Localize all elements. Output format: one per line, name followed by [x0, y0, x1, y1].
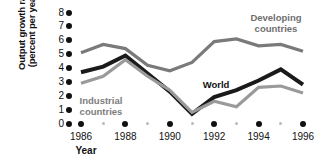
- x-axis-tick-dot: [211, 121, 217, 127]
- x-axis-minor-tick-dot: [102, 122, 105, 125]
- annotation-industrial-countries: Industrial countries: [62, 96, 140, 117]
- x-axis-tick-dot: [256, 121, 262, 127]
- x-axis-minor-tick-dot: [235, 122, 238, 125]
- x-axis-minor-tick-dot: [191, 122, 194, 125]
- x-axis-tick-dot: [300, 121, 306, 127]
- x-axis-tick-label: 1996: [283, 131, 323, 142]
- annotation-world-line1: World: [203, 79, 230, 90]
- annotation-developing-countries: Developing countries: [240, 13, 312, 34]
- annotation-developing-line1: Developing: [250, 12, 301, 23]
- x-axis-tick-label: 1992: [194, 131, 234, 142]
- x-axis-title: Year: [61, 145, 111, 156]
- x-axis-tick-dot: [78, 121, 84, 127]
- x-axis-tick-label: 1986: [61, 131, 101, 142]
- annotation-world: World: [196, 80, 236, 91]
- x-axis-tick-label: 1994: [239, 131, 279, 142]
- x-axis-tick-dot: [122, 121, 128, 127]
- x-axis-tick-label: 1990: [150, 131, 190, 142]
- x-axis-tick-label: 1988: [105, 131, 145, 142]
- line-chart: Output growth rate (percent per year) 87…: [0, 0, 335, 164]
- x-axis-tick-dot: [167, 121, 173, 127]
- annotation-developing-line2: countries: [255, 23, 298, 34]
- annotation-industrial-line2: countries: [80, 106, 123, 117]
- annotation-industrial-line1: Industrial: [80, 95, 123, 106]
